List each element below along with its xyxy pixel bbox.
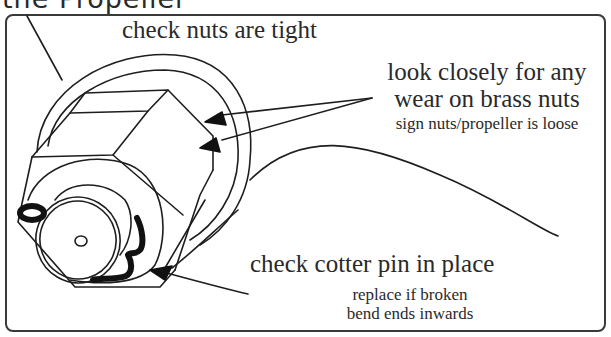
hex-nut-edge2	[32, 111, 148, 157]
label-look-closely: look closely for any	[367, 58, 607, 85]
hex-nut-side	[18, 157, 175, 287]
arrow-icon	[200, 138, 220, 152]
label-cotter-bend: bend ends inwards	[300, 304, 520, 323]
washer-inner-ring	[48, 70, 238, 240]
label-wear-brass-nuts: wear on brass nuts	[367, 85, 607, 112]
label-check-nuts-tight: check nuts are tight	[122, 16, 317, 44]
label-wear-note: sign nuts/propeller is loose	[367, 114, 607, 134]
label-cotter-pin: check cotter pin in place	[250, 250, 494, 278]
leader-shaft-curve	[250, 146, 558, 236]
arrow-icon	[205, 112, 226, 125]
shaft-hole	[75, 236, 87, 246]
hex-nut-top	[32, 90, 213, 170]
cotter-pin	[20, 206, 142, 280]
label-cotter-replace: replace if broken	[310, 285, 510, 304]
hex-nut-edge3	[113, 155, 183, 215]
propeller-nut-drawing	[0, 0, 611, 337]
hub-face-inner	[31, 192, 125, 287]
leader-cotter	[163, 272, 248, 294]
shaft-line	[27, 16, 62, 80]
